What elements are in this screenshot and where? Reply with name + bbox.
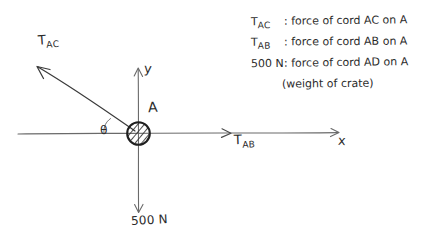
label-tac: TAC [37,32,59,50]
legend-line: 500 N: force of cord AD on A [251,55,437,79]
legend-separator: : [284,57,288,70]
force-vector-tac [37,67,135,132]
legend-line: TAB: force of cord AB on A [251,34,437,56]
label-tab-subscript: AB [242,139,255,149]
legend: TAC: force of cord AC on A TAB: force of… [251,14,437,98]
legend-symbol: 500 N [251,57,284,73]
legend-symbol: TAC [251,15,284,31]
legend-description: force of cord AD on A [291,55,408,70]
label-tab: TAB [234,133,256,150]
legend-description: (weight of crate) [282,77,374,91]
legend-line: TAC: force of cord AC on A [251,13,437,36]
label-tac-subscript: AC [46,39,60,50]
label-particle-a: A [148,100,159,114]
particle-a [127,122,150,145]
x-axis [18,129,339,137]
legend-description: force of cord AC on A [291,13,407,27]
legend-line: (weight of crate) [251,76,437,99]
label-x-axis: x [338,134,347,147]
legend-separator: : [284,35,288,48]
legend-description: force of cord AB on A [291,35,407,49]
label-y-axis: y [144,62,153,76]
sketch-canvas: TAC TAB 500 N A y x θ TAC: force of cord… [0,0,442,242]
label-theta: θ [100,124,108,136]
legend-separator: : [284,15,288,28]
legend-symbol: TAB [251,35,284,50]
label-weight: 500 N [131,213,168,227]
